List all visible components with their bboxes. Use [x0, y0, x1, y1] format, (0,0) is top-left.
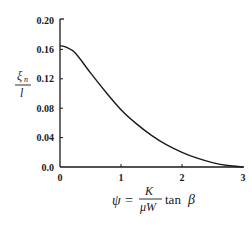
y-label-subscript: n [24, 75, 28, 84]
x-tick-label: 0 [58, 172, 63, 183]
y-tick-label: 0.08 [37, 103, 55, 114]
data-line [60, 46, 243, 167]
x-label-tan: tan [165, 192, 181, 207]
line-chart: 0.00.040.080.120.160.20 0123 ξ n l ψ = K… [0, 0, 252, 225]
x-tick-label: 1 [119, 172, 124, 183]
y-label-numerator: ξ [17, 69, 23, 83]
y-axis-label: ξ n l [15, 69, 31, 100]
x-axis-label: ψ = K μW tan β [112, 184, 195, 214]
y-label-denominator: l [20, 86, 24, 100]
x-tick-label: 2 [180, 172, 185, 183]
y-tick-label: 0.0 [42, 162, 55, 173]
y-axis-ticks: 0.00.040.080.120.160.20 [37, 15, 64, 173]
x-label-lhs: ψ = [112, 193, 134, 208]
x-label-beta: β [187, 192, 195, 207]
y-tick-label: 0.04 [37, 132, 55, 143]
x-label-frac-den: μW [139, 200, 157, 214]
x-tick-label: 3 [241, 172, 246, 183]
y-tick-label: 0.20 [37, 15, 55, 26]
axes [60, 19, 244, 167]
y-tick-label: 0.16 [37, 44, 55, 55]
x-label-frac-num: K [144, 184, 154, 198]
y-tick-label: 0.12 [37, 73, 55, 84]
